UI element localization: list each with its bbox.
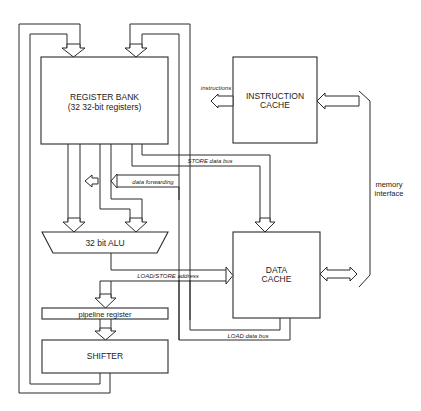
- alu: 32 bit ALU: [42, 232, 168, 253]
- shifter-label: SHIFTER: [87, 351, 123, 361]
- store-data-bus: STORE data bus: [132, 144, 275, 232]
- pipeline-to-shifter-arrow: [95, 319, 116, 340]
- memory-to-icache-arrow: [317, 93, 359, 109]
- data-forwarding-label: data forwarding: [132, 179, 174, 185]
- register-bank-title: REGISTER BANK: [70, 92, 139, 102]
- instruction-cache-line2: CACHE: [260, 100, 290, 110]
- store-data-bus-label: STORE data bus: [187, 158, 232, 164]
- load-store-address-label: LOAD/STORE address: [137, 273, 199, 279]
- data-cache-line2: CACHE: [262, 274, 292, 284]
- shifter: SHIFTER: [42, 340, 168, 373]
- load-store-address-bus: LOAD/STORE address: [95, 253, 233, 308]
- register-to-alu-buses: [63, 144, 147, 232]
- instructions-label: instructions: [201, 85, 231, 91]
- forwarding-arrow-left: [85, 175, 98, 187]
- register-bank-subtitle: (32 32-bit registers): [68, 102, 142, 112]
- alu-label: 32 bit ALU: [85, 238, 124, 248]
- data-cache: DATA CACHE: [233, 232, 320, 318]
- instruction-cache: INSTRUCTION CACHE: [233, 57, 317, 143]
- pipeline-register: pipeline register: [42, 308, 168, 319]
- load-data-bus-label: LOAD data bus: [227, 333, 268, 339]
- register-bank: REGISTER BANK (32 32-bit registers): [41, 57, 168, 144]
- dcache-memory-arrow: [320, 267, 357, 281]
- memory-interface-line1: memory: [375, 180, 402, 189]
- memory-interface-line2: interface: [375, 189, 404, 198]
- instructions-bus: instructions: [201, 85, 233, 108]
- cpu-datapath-diagram: REGISTER BANK (32 32-bit registers) data…: [0, 0, 421, 411]
- pipeline-register-label: pipeline register: [79, 310, 132, 319]
- memory-interface-bracket: memory interface: [359, 91, 403, 287]
